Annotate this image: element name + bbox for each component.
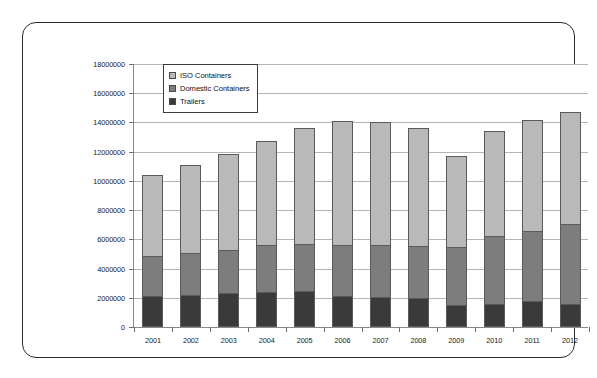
bar-segment-trailers[interactable]: [180, 295, 201, 327]
stacked-bar-2012[interactable]: [560, 112, 581, 327]
bar-segment-domestic-containers[interactable]: [370, 245, 391, 297]
chart-frame: 0200000040000006000000800000010000000120…: [22, 22, 575, 358]
legend-swatch-icon: [169, 72, 176, 79]
y-tick-mark: [129, 239, 134, 240]
bar-segment-iso-containers[interactable]: [484, 131, 505, 236]
y-tick-label: 14000000: [93, 118, 125, 127]
stacked-bar-2006[interactable]: [332, 121, 353, 327]
bar-segment-iso-containers[interactable]: [370, 122, 391, 245]
bar-segment-domestic-containers[interactable]: [446, 247, 467, 305]
legend-swatch-icon: [169, 85, 176, 92]
x-tick-label: 2004: [259, 336, 275, 345]
x-tick-mark: [134, 327, 135, 332]
bar-segment-iso-containers[interactable]: [180, 165, 201, 253]
x-tick-mark: [362, 327, 363, 332]
y-tick-mark: [129, 181, 134, 182]
gridline: [134, 298, 588, 299]
bar-segment-iso-containers[interactable]: [142, 175, 163, 256]
stacked-bar-2008[interactable]: [408, 128, 429, 327]
x-tick-mark: [437, 327, 438, 332]
stacked-bar-2009[interactable]: [446, 156, 467, 327]
y-tick-label: 18000000: [93, 60, 125, 69]
bar-segment-trailers[interactable]: [560, 304, 581, 327]
gridline: [134, 210, 588, 211]
x-tick-label: 2009: [448, 336, 464, 345]
bar-segment-iso-containers[interactable]: [218, 154, 239, 250]
stacked-bar-2004[interactable]: [256, 141, 277, 327]
stacked-bar-2001[interactable]: [142, 175, 163, 327]
x-tick-mark: [172, 327, 173, 332]
y-tick-mark: [129, 93, 134, 94]
bar-segment-domestic-containers[interactable]: [332, 245, 353, 296]
x-tick-label: 2008: [410, 336, 426, 345]
gridline: [134, 181, 588, 182]
stacked-bar-2011[interactable]: [522, 120, 543, 327]
bar-segment-iso-containers[interactable]: [522, 120, 543, 230]
x-tick-mark: [589, 327, 590, 332]
x-tick-mark: [399, 327, 400, 332]
y-tick-mark: [129, 152, 134, 153]
bar-segment-domestic-containers[interactable]: [294, 244, 315, 291]
x-tick-label: 2011: [524, 336, 539, 345]
bar-segment-domestic-containers[interactable]: [218, 250, 239, 294]
stacked-bar-2005[interactable]: [294, 128, 315, 327]
x-tick-label: 2005: [297, 336, 313, 345]
bar-segment-trailers[interactable]: [446, 305, 467, 327]
x-tick-mark: [513, 327, 514, 332]
bar-segment-trailers[interactable]: [142, 296, 163, 327]
x-tick-mark: [324, 327, 325, 332]
stacked-bar-2010[interactable]: [484, 131, 505, 327]
gridline: [134, 152, 588, 153]
bar-segment-trailers[interactable]: [484, 304, 505, 327]
y-tick-label: 8000000: [97, 206, 125, 215]
x-tick-mark: [551, 327, 552, 332]
bar-segment-iso-containers[interactable]: [256, 141, 277, 245]
bar-segment-iso-containers[interactable]: [560, 112, 581, 224]
bar-segment-iso-containers[interactable]: [446, 156, 467, 247]
bar-segment-iso-containers[interactable]: [408, 128, 429, 246]
y-tick-label: 6000000: [97, 235, 125, 244]
legend-item-domestic-containers[interactable]: Domestic Containers: [169, 82, 250, 95]
gridline: [134, 269, 588, 270]
stacked-bar-2003[interactable]: [218, 154, 239, 327]
bar-segment-trailers[interactable]: [522, 301, 543, 327]
x-tick-label: 2002: [183, 336, 199, 345]
x-tick-label: 2007: [373, 336, 389, 345]
y-tick-mark: [129, 298, 134, 299]
bar-segment-iso-containers[interactable]: [332, 121, 353, 245]
y-tick-mark: [129, 64, 134, 65]
bar-segment-trailers[interactable]: [408, 298, 429, 327]
y-tick-label: 2000000: [97, 293, 125, 302]
y-tick-label: 0: [121, 323, 125, 332]
bar-segment-domestic-containers[interactable]: [180, 253, 201, 295]
legend-item-iso-containers[interactable]: ISO Containers: [169, 69, 250, 82]
bar-segment-trailers[interactable]: [294, 291, 315, 327]
legend-item-trailers[interactable]: Trailers: [169, 95, 250, 108]
legend-label: ISO Containers: [180, 71, 231, 80]
stacked-bar-2002[interactable]: [180, 165, 201, 327]
x-tick-label: 2003: [221, 336, 237, 345]
bar-segment-trailers[interactable]: [256, 292, 277, 327]
legend-label: Domestic Containers: [180, 84, 250, 93]
bar-segment-domestic-containers[interactable]: [560, 224, 581, 304]
bar-segment-domestic-containers[interactable]: [142, 256, 163, 296]
gridline: [134, 239, 588, 240]
bar-segment-trailers[interactable]: [370, 297, 391, 327]
bar-segment-iso-containers[interactable]: [294, 128, 315, 244]
y-tick-mark: [129, 122, 134, 123]
bar-segment-domestic-containers[interactable]: [256, 245, 277, 292]
bar-segment-domestic-containers[interactable]: [408, 246, 429, 298]
y-tick-mark: [129, 269, 134, 270]
x-tick-mark: [248, 327, 249, 332]
legend-label: Trailers: [180, 97, 205, 106]
stacked-bar-2007[interactable]: [370, 122, 391, 327]
bar-segment-trailers[interactable]: [332, 296, 353, 327]
bar-segment-domestic-containers[interactable]: [522, 231, 543, 302]
y-tick-mark: [129, 210, 134, 211]
bar-segment-trailers[interactable]: [218, 293, 239, 327]
gridline: [134, 122, 588, 123]
x-tick-label: 2006: [335, 336, 351, 345]
x-tick-label: 2001: [145, 336, 161, 345]
bar-segment-domestic-containers[interactable]: [484, 236, 505, 303]
x-tick-mark: [286, 327, 287, 332]
